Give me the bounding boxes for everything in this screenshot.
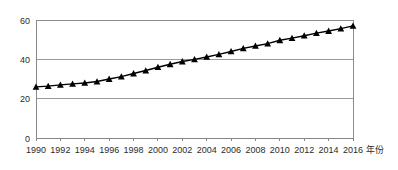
x-tick-label-2012: 2012 xyxy=(294,145,314,155)
series-markers xyxy=(33,23,357,90)
x-tick-label-1994: 1994 xyxy=(75,145,95,155)
x-tick-label-1992: 1992 xyxy=(50,145,70,155)
x-tick-label-1990: 1990 xyxy=(26,145,46,155)
line-chart: 0204060199019921994199619982000200220042… xyxy=(0,0,398,170)
x-tick-label-2014: 2014 xyxy=(319,145,339,155)
x-tick-label-2004: 2004 xyxy=(197,145,217,155)
x-tick-label-1996: 1996 xyxy=(99,145,119,155)
x-tick-label-2006: 2006 xyxy=(221,145,241,155)
x-tick-label-2016: 2016 xyxy=(343,145,363,155)
data-point-2016 xyxy=(350,23,357,29)
x-tick-label-2008: 2008 xyxy=(245,145,265,155)
y-tick-label-40: 40 xyxy=(20,55,30,65)
y-tick-label-60: 60 xyxy=(20,16,30,26)
y-tick-label-0: 0 xyxy=(25,134,30,144)
y-tick-label-20: 20 xyxy=(20,94,30,104)
x-tick-label-2010: 2010 xyxy=(270,145,290,155)
chart-canvas: 0204060199019921994199619982000200220042… xyxy=(0,0,398,170)
x-tick-label-2002: 2002 xyxy=(172,145,192,155)
x-axis-title: 年份 xyxy=(366,144,384,155)
x-tick-label-2000: 2000 xyxy=(148,145,168,155)
x-tick-label-1998: 1998 xyxy=(124,145,144,155)
